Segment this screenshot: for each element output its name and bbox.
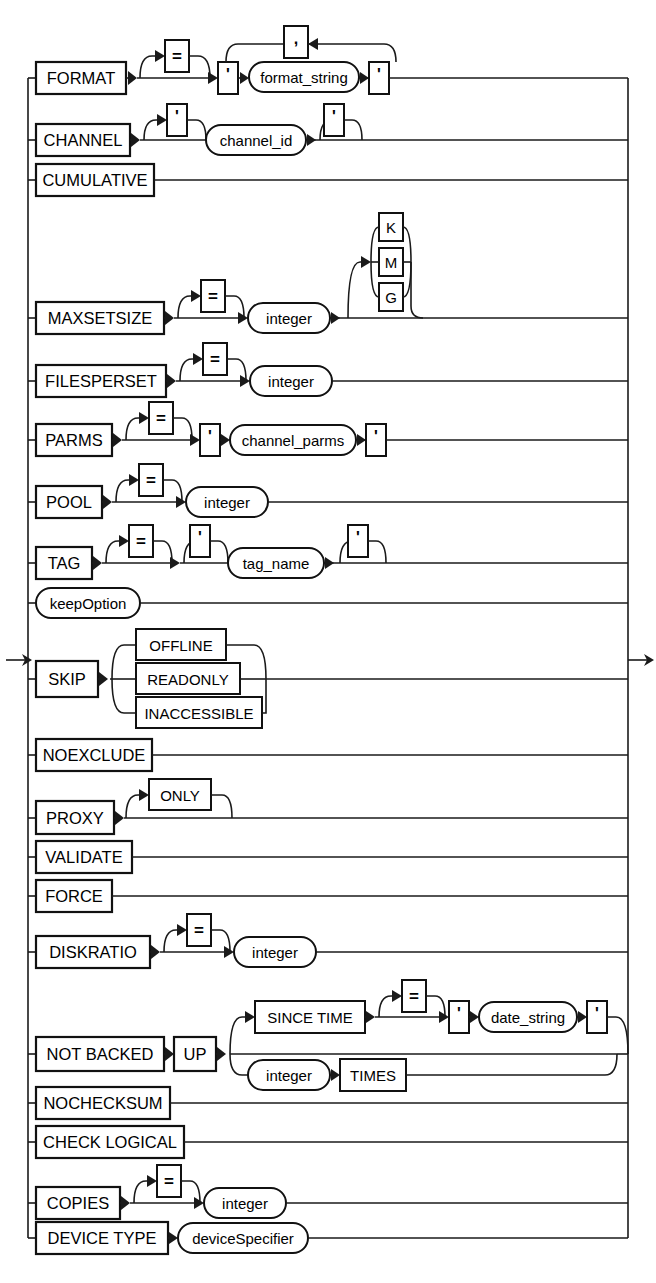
row-filesperset: FILESPERSET = integer <box>28 343 628 397</box>
filesperset-keyword-label: FILESPERSET <box>45 372 157 390</box>
row-skip: SKIP OFFLINE READONLY INACCESSIBLE <box>28 629 628 728</box>
since-time-equals-label: = <box>409 987 419 1006</box>
not-backed-up-label: UP <box>184 1045 207 1063</box>
maxsetsize-integer-label: integer <box>266 310 312 327</box>
format-close-quote-label: ' <box>377 66 381 83</box>
row-noexclude: NOEXCLUDE <box>28 739 628 771</box>
diskratio-equals-label: = <box>194 921 204 940</box>
row-pool: POOL = integer <box>28 464 628 518</box>
row-format: FORMAT = ' format_string ' , <box>28 26 628 94</box>
format-comma-label: , <box>294 30 298 47</box>
channel-close-quote-label: ' <box>332 108 336 125</box>
parms-close-quote-label: ' <box>374 428 378 445</box>
copies-keyword-label: COPIES <box>47 1194 109 1212</box>
copies-integer-label: integer <box>222 1195 268 1212</box>
maxsetsize-unit-m-label: M <box>385 254 398 271</box>
parms-keyword-label: PARMS <box>45 431 102 449</box>
format-open-quote-label: ' <box>226 66 230 83</box>
diskratio-keyword-label: DISKRATIO <box>49 943 137 961</box>
row-maxsetsize: MAXSETSIZE = integer K M G <box>28 213 628 334</box>
tag-open-quote-label: ' <box>198 529 202 546</box>
row-nochecksum: NOCHECKSUM <box>28 1087 628 1119</box>
tag-keyword-label: TAG <box>48 554 81 572</box>
proxy-keyword-label: PROXY <box>46 809 104 827</box>
maxsetsize-unit-g-label: G <box>385 289 397 306</box>
skip-choice-inaccessible-label: INACCESSIBLE <box>144 705 253 722</box>
device-specifier-label: deviceSpecifier <box>192 1230 294 1247</box>
date-open-quote-label: ' <box>457 1005 461 1022</box>
date-close-quote-label: ' <box>595 1005 599 1022</box>
diskratio-integer-label: integer <box>252 944 298 961</box>
skip-choice-readonly-label: READONLY <box>147 671 228 688</box>
channel-keyword-label: CHANNEL <box>44 131 123 149</box>
maxsetsize-keyword-label: MAXSETSIZE <box>48 309 153 327</box>
parms-open-quote-label: ' <box>208 428 212 445</box>
row-tag: TAG = ' tag_name ' <box>28 525 628 579</box>
row-not-backed-up: NOT BACKED UP SINCE TIME = ' date_string… <box>28 980 628 1091</box>
keepoption-label: keepOption <box>50 595 127 612</box>
channel-id-label: channel_id <box>220 132 293 149</box>
noexclude-keyword-label: NOEXCLUDE <box>43 746 146 764</box>
times-label: TIMES <box>350 1067 396 1084</box>
force-keyword-label: FORCE <box>45 887 103 905</box>
row-keepoption: keepOption <box>28 588 628 618</box>
pool-keyword-label: POOL <box>46 493 92 511</box>
row-proxy: PROXY ONLY <box>28 779 628 834</box>
channel-open-quote-label: ' <box>175 108 179 125</box>
skip-choice-offline-label: OFFLINE <box>149 637 212 654</box>
row-check-logical: CHECK LOGICAL <box>28 1126 628 1158</box>
row-copies: COPIES = integer <box>28 1165 628 1219</box>
row-channel: CHANNEL ' channel_id ' <box>28 104 628 156</box>
railroad-diagram: FORMAT = ' format_string ' , <box>0 0 656 1283</box>
filesperset-equals-label: = <box>210 350 220 369</box>
row-diskratio: DISKRATIO = integer <box>28 914 628 968</box>
check-logical-keyword-label: CHECK LOGICAL <box>43 1133 177 1151</box>
parms-equals-label: = <box>156 409 166 428</box>
copies-equals-label: = <box>164 1172 174 1191</box>
skip-keyword-label: SKIP <box>48 670 86 688</box>
exit-arrow <box>628 654 654 666</box>
since-time-label: SINCE TIME <box>267 1009 353 1026</box>
railroad-diagram-canvas: FORMAT = ' format_string ' , <box>0 0 656 1283</box>
device-type-keyword-label: DEVICE TYPE <box>48 1229 157 1247</box>
format-equals-label: = <box>172 47 182 66</box>
validate-keyword-label: VALIDATE <box>45 848 122 866</box>
row-validate: VALIDATE <box>28 841 628 873</box>
maxsetsize-equals-label: = <box>208 287 218 306</box>
not-backed-integer-label: integer <box>266 1067 312 1084</box>
cumulative-keyword-label: CUMULATIVE <box>42 171 147 189</box>
not-backed-keyword-label: NOT BACKED <box>47 1045 154 1063</box>
row-parms: PARMS = ' channel_parms ' <box>28 402 628 456</box>
tag-equals-label: = <box>136 532 146 551</box>
row-cumulative: CUMULATIVE <box>28 164 628 196</box>
date-string-label: date_string <box>491 1009 565 1026</box>
parms-channel-parms-label: channel_parms <box>242 432 345 449</box>
maxsetsize-unit-k-label: K <box>386 219 396 236</box>
tag-close-quote-label: ' <box>356 529 360 546</box>
format-string-label: format_string <box>260 69 348 86</box>
pool-equals-label: = <box>146 471 156 490</box>
row-device-type: DEVICE TYPE deviceSpecifier <box>28 1222 628 1254</box>
nochecksum-keyword-label: NOCHECKSUM <box>43 1094 162 1112</box>
pool-integer-label: integer <box>204 494 250 511</box>
proxy-only-label: ONLY <box>160 787 200 804</box>
tag-name-label: tag_name <box>243 555 310 572</box>
row-force: FORCE <box>28 880 628 912</box>
format-keyword-label: FORMAT <box>47 69 115 87</box>
filesperset-integer-label: integer <box>268 373 314 390</box>
